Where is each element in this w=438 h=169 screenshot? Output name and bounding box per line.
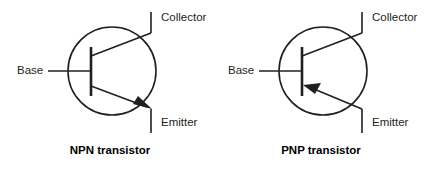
pnp-emitter-arrowhead xyxy=(303,83,321,94)
transistor-diagram-svg: Base Collector Emitter NPN transistor Ba… xyxy=(0,0,438,169)
npn-emitter-label: Emitter xyxy=(161,116,198,128)
pnp-emitter-diagonal xyxy=(314,89,362,109)
transistor-symbols-figure: Base Collector Emitter NPN transistor Ba… xyxy=(0,0,438,169)
pnp-caption: PNP transistor xyxy=(281,144,361,156)
npn-collector-diagonal xyxy=(91,33,151,56)
pnp-collector-diagonal xyxy=(302,33,362,56)
pnp-transistor-symbol: Base Collector Emitter PNP transistor xyxy=(228,11,418,156)
pnp-collector-label: Collector xyxy=(372,11,418,23)
npn-transistor-symbol: Base Collector Emitter NPN transistor xyxy=(17,11,207,156)
npn-base-label: Base xyxy=(17,64,43,76)
pnp-emitter-label: Emitter xyxy=(372,116,409,128)
pnp-base-label: Base xyxy=(228,64,254,76)
npn-collector-label: Collector xyxy=(161,11,207,23)
npn-caption: NPN transistor xyxy=(70,144,151,156)
